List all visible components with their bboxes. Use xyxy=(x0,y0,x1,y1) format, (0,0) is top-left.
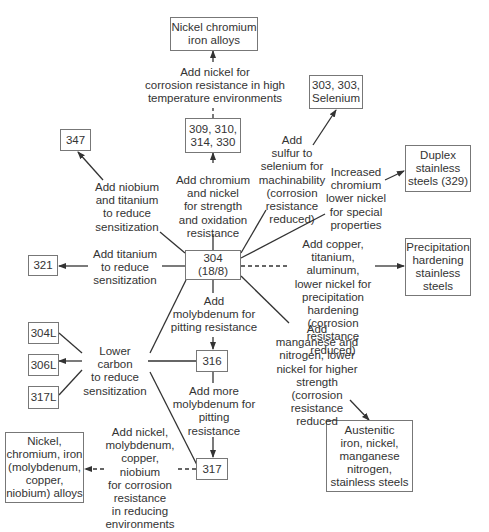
node-precipitation-hardening: Precipitation hardening stainless steels xyxy=(405,238,471,296)
edge-to-304L xyxy=(59,333,82,353)
node-304: 304 (18/8) xyxy=(185,250,241,280)
label-add-molybdenum: Add molybdenum for pitting resistance xyxy=(170,295,258,335)
label-add-nickel-high-temp: Add nickel for corrosion resistance in h… xyxy=(145,66,285,106)
label-add-manganese-nitrogen: Add manganese and nitrogen, lower nickel… xyxy=(272,323,362,429)
label-add-nickel-reducing: Add nickel, molybdenum, copper, niobium … xyxy=(100,426,180,532)
node-nickel-chromium-iron-alloys: Nickel chromium iron alloys xyxy=(170,17,258,51)
label-add-titanium: Add titanium to reduce sensitization xyxy=(88,248,162,288)
edge-304-to-347-b xyxy=(78,152,103,180)
node-321: 321 xyxy=(28,255,58,276)
label-increased-chromium: Increased chromium lower nickel for spec… xyxy=(324,166,388,232)
node-317L: 317L xyxy=(28,386,59,409)
node-austenitic-stainless: Austenitic iron, nickel, manganese nitro… xyxy=(326,420,413,492)
label-lower-carbon: Lower carbon to reduce sensitization xyxy=(82,345,148,398)
node-nickel-chromium-iron-molybdenum-alloys: Nickel, chromium, iron (molybdenum, copp… xyxy=(5,432,84,503)
label-add-sulfur-selenium: Add sulfur to selenium for machinability… xyxy=(258,134,326,226)
label-add-chromium-nickel: Add chromium and nickel for strength and… xyxy=(172,174,254,240)
node-316: 316 xyxy=(196,350,228,372)
node-304L: 304L xyxy=(28,322,59,344)
node-306L: 306L xyxy=(28,354,59,376)
label-add-more-molybdenum: Add more molybdenum for pitting resistan… xyxy=(170,385,258,438)
node-347: 347 xyxy=(60,129,91,151)
node-duplex-stainless: Duplex stainless steels (329) xyxy=(405,145,471,192)
label-add-niobium-titanium: Add niobium and titanium to reduce sensi… xyxy=(92,181,162,234)
edge-to-317L xyxy=(59,370,82,395)
node-309-310-314-330: 309, 310, 314, 330 xyxy=(185,118,241,153)
node-303-selenium: 303, 303, Selenium xyxy=(309,75,363,109)
node-317: 317 xyxy=(196,458,228,480)
